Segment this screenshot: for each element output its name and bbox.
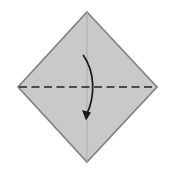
origami-diagram: [0, 0, 174, 174]
origami-figure-canvas: [0, 0, 174, 174]
